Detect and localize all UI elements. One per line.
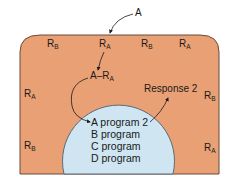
response-label: Response 2 — [144, 83, 198, 94]
complex-label: A–RA — [90, 70, 114, 82]
receptor-label: RA — [24, 88, 36, 100]
program-item: B program — [91, 128, 140, 140]
receptor-label: RB — [47, 38, 59, 50]
receptor-label: RA — [179, 38, 191, 50]
receptor-label: RA — [204, 142, 216, 154]
program-item: D program — [91, 152, 141, 164]
receptor-label: RB — [204, 90, 216, 102]
receptor-label: RB — [141, 38, 153, 50]
ligand-label: A — [135, 7, 142, 18]
program-item: A program 2 — [91, 116, 148, 128]
receptor-label: RA — [99, 38, 111, 50]
program-item: C program — [91, 140, 141, 152]
label-layer: A RB RA RB RA RA RB RB RA A–RA Response … — [0, 0, 227, 191]
receptor-label: RB — [24, 140, 36, 152]
